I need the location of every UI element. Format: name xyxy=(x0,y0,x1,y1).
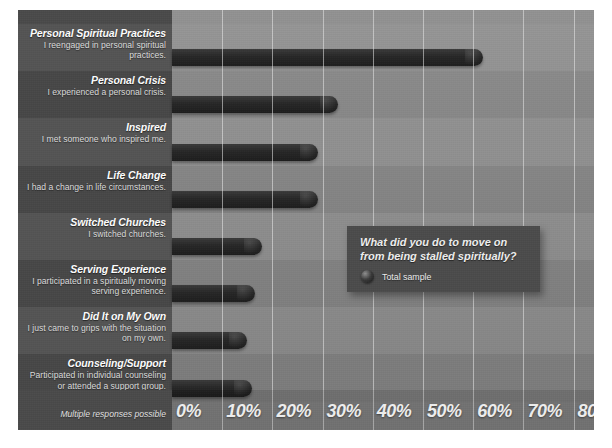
legend-label: Total sample xyxy=(382,272,431,282)
row-labels: Serving ExperienceI participated in a sp… xyxy=(20,263,174,296)
bar xyxy=(172,332,247,349)
gridline xyxy=(523,10,524,430)
gridline xyxy=(222,10,223,430)
category-description: I participated in a spiritually moving s… xyxy=(20,276,166,296)
row-labels: Counseling/SupportParticipated in indivi… xyxy=(20,357,174,390)
category-description: Participated in individual counseling or… xyxy=(20,370,166,390)
axis-tick-label: 10% xyxy=(226,401,261,422)
legend-dot-icon xyxy=(361,270,374,283)
bar-chart: Personal Spiritual PracticesI reengaged … xyxy=(18,10,594,430)
gridline xyxy=(473,10,474,430)
row-labels: Did It on My OwnI just came to grips wit… xyxy=(20,310,174,343)
callout-question-line1: What did you do to move on xyxy=(360,236,507,248)
bar xyxy=(172,238,262,255)
chart-row: Did It on My OwnI just came to grips wit… xyxy=(18,307,594,354)
callout-question: What did you do to move on from being st… xyxy=(360,235,532,263)
axis-tick-label: 0% xyxy=(176,401,201,422)
axis-footnote: Multiple responses possible xyxy=(20,409,174,419)
axis-tick-label: 40% xyxy=(377,401,412,422)
row-labels: Switched ChurchesI switched churches. xyxy=(20,216,174,239)
axis-tick-label: 50% xyxy=(427,401,462,422)
axis-tick-label: 30% xyxy=(327,401,362,422)
gridline xyxy=(574,10,575,430)
category-title: Personal Crisis xyxy=(20,74,166,86)
category-title: Inspired xyxy=(20,121,166,133)
gridline xyxy=(272,10,273,430)
category-description: I met someone who inspired me. xyxy=(20,134,166,144)
legend: Total sample xyxy=(361,270,431,283)
callout-question-line2: from being stalled spiritually? xyxy=(360,250,516,262)
axis-tick-label: 70% xyxy=(527,401,562,422)
x-axis: Multiple responses possible 0%10%20%30%4… xyxy=(18,390,594,430)
category-title: Switched Churches xyxy=(20,216,166,228)
gridline xyxy=(323,10,324,430)
row-labels: Personal CrisisI experienced a personal … xyxy=(20,74,174,97)
bar xyxy=(172,285,255,302)
row-labels: Personal Spiritual PracticesI reengaged … xyxy=(20,27,174,60)
category-title: Counseling/Support xyxy=(20,357,166,369)
category-description: I reengaged in personal spiritual practi… xyxy=(20,40,166,60)
category-title: Serving Experience xyxy=(20,263,166,275)
bar xyxy=(172,96,338,113)
chart-page: Personal Spiritual PracticesI reengaged … xyxy=(0,0,612,448)
category-description: I just came to grips with the situation … xyxy=(20,323,166,343)
bar xyxy=(172,191,318,208)
category-description: I had a change in life circumstances. xyxy=(20,182,166,192)
category-title: Personal Spiritual Practices xyxy=(20,27,166,39)
category-title: Did It on My Own xyxy=(20,310,166,322)
question-callout: What did you do to move on from being st… xyxy=(347,226,540,292)
axis-tick-label: 60% xyxy=(477,401,512,422)
bar xyxy=(172,49,483,66)
category-title: Life Change xyxy=(20,169,166,181)
axis-tick-label: 20% xyxy=(276,401,311,422)
category-description: I switched churches. xyxy=(20,229,166,239)
category-description: I experienced a personal crisis. xyxy=(20,87,166,97)
gridline xyxy=(423,10,424,430)
bar xyxy=(172,144,318,161)
row-labels: InspiredI met someone who inspired me. xyxy=(20,121,174,144)
row-labels: Life ChangeI had a change in life circum… xyxy=(20,169,174,192)
axis-tick-label: 80% xyxy=(578,401,594,422)
gridline xyxy=(373,10,374,430)
